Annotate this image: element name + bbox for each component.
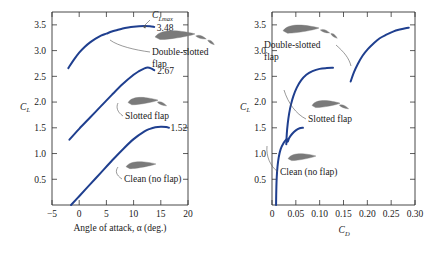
y-axis-title-sub: L (25, 106, 30, 113)
x-tick-label: 0 (270, 209, 275, 219)
lift-vs-drag-panel: 0.51.01.52.02.53.03.500.050.100.150.200.… (218, 0, 435, 255)
x-tick-label: 0 (77, 209, 82, 219)
double-slotted-flap-segment-1 (320, 28, 330, 34)
y-tick-label: 1.5 (254, 123, 266, 133)
y-tick-label: 3.5 (254, 20, 266, 30)
x-tick-label: −5 (47, 209, 57, 219)
clean-airfoil-icon-body (288, 153, 316, 161)
curve-clean (71, 127, 169, 205)
slotted-flap-airfoil-icon-body (312, 100, 340, 108)
clean-flap-leader (116, 167, 122, 179)
clean-airfoil-icon (126, 161, 156, 169)
x-tick-label: 5 (104, 209, 109, 219)
slotted-flap-airfoil-icon (128, 96, 158, 105)
x-axis-title-sub: D (344, 230, 350, 237)
y-tick-label: 2.5 (254, 72, 266, 82)
double-slotted-flap-segment-2 (207, 39, 215, 45)
x-tick-label: 0.25 (383, 209, 400, 219)
slotted-flap-label: Slotted flap (125, 111, 169, 121)
y-tick-label: 0.5 (254, 175, 266, 185)
x-axis-title: Angle of attack, α (deg.) (73, 223, 166, 234)
double-slotted-flap-label-line2: flap (152, 59, 167, 69)
double-slotted-flap-leader (110, 40, 150, 52)
double-slotted-flap-label-line1: Double-slotted (152, 47, 209, 57)
y-tick-label: 3.0 (34, 46, 46, 56)
slotted-flap-segment-1 (157, 101, 167, 107)
curve-double-slotted (351, 28, 409, 82)
y-tick-label: 1.0 (254, 149, 266, 159)
clmax-value-clean: 1.52 (171, 123, 188, 133)
x-tick-label: 0.15 (335, 209, 352, 219)
y-tick-label: 2.0 (254, 97, 266, 107)
airfoil-lift-drag-figure: 0.51.01.52.02.53.03.5−505101520CLAngle o… (0, 0, 435, 255)
double-slotted-flap-segment-2-body (330, 33, 338, 39)
x-tick-label: 0.30 (407, 209, 424, 219)
double-slotted-flap-segment-1-body (320, 28, 330, 34)
curve-double-slotted (68, 26, 154, 68)
x-tick-label: 20 (183, 209, 193, 219)
x-tick-label: 0.20 (359, 209, 376, 219)
double-slotted-flap-airfoil-icon (283, 24, 319, 34)
x-axis-title: CD (339, 225, 350, 237)
double-slotted-flap-segment-2 (330, 33, 338, 39)
slotted-flap-airfoil-icon-body (128, 96, 158, 105)
x-tick-label: 0.10 (311, 209, 328, 219)
y-axis-title: CL (20, 102, 30, 114)
double-slotted-flap-leader (336, 45, 351, 66)
clean-airfoil-icon (288, 153, 316, 161)
y-axis-title: CL (240, 102, 250, 114)
slotted-flap-segment-1-body (339, 104, 349, 110)
double-slotted-flap-label-line2: flap (264, 52, 279, 62)
clean-flap-label: Clean (no flap) (280, 167, 338, 178)
x-tick-label: 10 (129, 209, 139, 219)
double-slotted-flap-label-line1: Double-slotted (264, 40, 321, 50)
slotted-flap-segment-1-body (157, 101, 167, 107)
y-tick-label: 2.5 (34, 72, 46, 82)
slotted-flap-leader (117, 103, 123, 116)
clmax-annotation-sub: Lmax (157, 15, 173, 22)
double-slotted-flap-segment-1 (195, 34, 206, 40)
y-tick-label: 2.0 (34, 97, 46, 107)
slotted-flap-label: Slotted flap (308, 114, 352, 124)
double-slotted-flap-segment-1-body (195, 34, 206, 40)
double-slotted-flap-segment-2-body (207, 39, 215, 45)
clean-airfoil-icon-body (126, 161, 156, 169)
x-tick-label: 0.05 (288, 209, 305, 219)
y-tick-label: 1.0 (34, 149, 46, 159)
y-tick-label: 3.5 (34, 20, 46, 30)
slotted-flap-segment-1 (339, 104, 349, 110)
y-tick-label: 0.5 (34, 175, 46, 185)
lift-vs-alpha-panel: 0.51.01.52.02.53.03.5−505101520CLAngle o… (0, 0, 218, 255)
double-slotted-flap-airfoil-icon-body (283, 24, 319, 34)
slotted-flap-airfoil-icon (312, 100, 340, 108)
y-tick-label: 1.5 (34, 123, 46, 133)
y-axis-title-sub: L (245, 106, 250, 113)
x-tick-label: 15 (156, 209, 166, 219)
clean-flap-label: Clean (no flap) (124, 174, 182, 185)
